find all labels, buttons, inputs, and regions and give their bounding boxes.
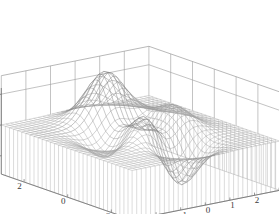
plot-canvas: 50-520-2-3-2-10123 bbox=[0, 0, 279, 214]
x-tick-label: -1 bbox=[180, 210, 188, 215]
y-tick-label: 2 bbox=[17, 181, 22, 191]
x-tick-label: 0 bbox=[206, 205, 211, 214]
peaks-3d-plot-figure: 50-520-2-3-2-10123 bbox=[0, 0, 279, 214]
y-tick-label: -2 bbox=[103, 211, 111, 214]
x-tick-label: 2 bbox=[255, 195, 260, 205]
x-tick-label: 1 bbox=[230, 200, 235, 210]
y-tick-label: 0 bbox=[61, 196, 66, 206]
